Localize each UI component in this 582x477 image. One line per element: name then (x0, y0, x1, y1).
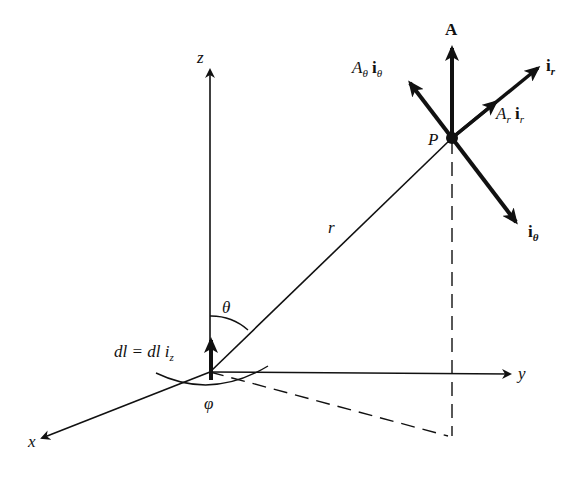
diagram-lines (0, 0, 582, 477)
itheta-label: iθ (528, 222, 538, 243)
y-axis-label: y (518, 364, 526, 384)
theta-arc (210, 316, 248, 330)
r-label: r (328, 218, 335, 238)
Ar-ir-vector (452, 102, 496, 138)
Atheta-itheta-label: Aθ iθ (352, 58, 382, 79)
theta-label: θ (222, 298, 230, 318)
projection-horizontal (210, 372, 448, 436)
Ar-ir-label: Ar ir (496, 104, 524, 125)
x-axis-label: x (28, 432, 36, 452)
r-line (210, 138, 452, 372)
dipole-spherical-diagram: z x y A P r θ φ dl = dl iz ir iθ Ar ir A… (0, 0, 582, 477)
point-P (446, 132, 458, 144)
A-label: A (445, 20, 457, 40)
dl-label: dl = dl iz (114, 342, 174, 363)
phi-label: φ (204, 394, 213, 414)
x-axis (42, 372, 210, 438)
ir-label: ir (546, 56, 555, 77)
itheta-vector (452, 138, 516, 222)
P-label: P (428, 130, 438, 150)
z-axis-label: z (197, 48, 204, 68)
